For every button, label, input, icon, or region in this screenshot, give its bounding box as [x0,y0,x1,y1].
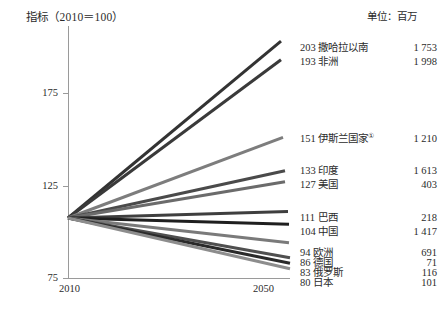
series-label: 133 印度 [300,165,338,176]
series-population-value: 218 [377,212,437,223]
series-population-value: 1 417 [377,226,437,237]
series-population-value: 1 753 [377,42,437,53]
series-name: 印度 [316,165,339,176]
series-population-value: 1 613 [377,165,437,176]
series-name: 日本 [311,277,334,288]
series-index-value: 111 [300,212,315,223]
series-index-value: 203 [300,42,316,53]
series-label: 203 撒哈拉以南 [300,42,368,53]
series-index-value: 133 [300,165,316,176]
series-population-value: 1 998 [377,56,437,67]
series-index-value: 193 [300,56,316,67]
series-line [68,218,290,269]
population-index-line-chart: 指标（2010＝100） 单位：百万 175 125 75 2010 2050 … [0,0,443,316]
series-label: 111 巴西 [300,212,338,223]
footnote-marker: ① [368,132,374,140]
series-name: 中国 [316,226,339,237]
series-line [68,41,281,218]
series-name: 巴西 [315,212,338,223]
series-label: 193 非洲 [300,56,338,67]
series-label: 80 日本 [300,277,333,288]
series-label: 151 伊斯兰国家① [300,133,374,144]
series-label: 127 美国 [300,179,338,190]
series-population-value: 403 [377,179,437,190]
series-index-value: 104 [300,226,316,237]
series-population-value: 1 210 [377,133,437,144]
series-name: 美国 [316,179,339,190]
series-name: 撒哈拉以南 [316,42,369,53]
series-population-value: 101 [377,277,437,288]
series-name: 非洲 [316,56,339,67]
series-label: 104 中国 [300,226,338,237]
series-name: 伊斯兰国家 [316,133,369,144]
series-index-value: 151 [300,133,316,144]
series-index-value: 127 [300,179,316,190]
series-index-value: 80 [300,277,311,288]
